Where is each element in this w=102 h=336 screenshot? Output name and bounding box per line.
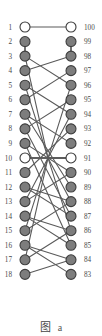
left-node-label-4: 4 — [8, 67, 12, 75]
graph-edge — [25, 85, 71, 158]
left-node-12[interactable] — [20, 182, 30, 192]
figure-caption: 图a — [0, 321, 102, 334]
left-node-label-7: 7 — [8, 111, 12, 119]
right-node-91[interactable] — [66, 153, 76, 163]
edge-layer — [25, 27, 71, 274]
left-node-7[interactable] — [20, 109, 30, 119]
graph-edge — [25, 56, 71, 71]
left-node-label-6: 6 — [8, 96, 12, 104]
right-node-99[interactable] — [66, 37, 76, 47]
right-node-label-99: 99 — [84, 38, 92, 46]
right-node-label-96: 96 — [84, 82, 92, 90]
caption-latin-text: a — [58, 322, 62, 333]
caption-cjk-text: 图 — [40, 321, 51, 334]
right-node-label-87: 87 — [84, 213, 92, 221]
left-node-label-17: 17 — [5, 256, 13, 264]
right-node-88[interactable] — [66, 197, 76, 207]
right-node-label-85: 85 — [84, 242, 92, 250]
left-node-label-8: 8 — [8, 125, 12, 133]
right-node-85[interactable] — [66, 240, 76, 250]
left-node-label-13: 13 — [5, 198, 13, 206]
right-node-87[interactable] — [66, 211, 76, 221]
right-node-90[interactable] — [66, 168, 76, 178]
right-node-label-86: 86 — [84, 227, 92, 235]
right-node-94[interactable] — [66, 109, 76, 119]
left-node-6[interactable] — [20, 95, 30, 105]
graph-edge — [25, 231, 71, 260]
left-node-9[interactable] — [20, 138, 30, 148]
graph-edge — [25, 129, 71, 216]
left-node-label-16: 16 — [5, 242, 13, 250]
graph-edge — [25, 114, 71, 187]
left-node-label-1: 1 — [8, 24, 12, 32]
graph-edge — [25, 245, 71, 260]
left-node-18[interactable] — [20, 269, 30, 279]
left-node-10[interactable] — [20, 153, 30, 163]
right-node-label-94: 94 — [84, 111, 92, 119]
left-node-13[interactable] — [20, 197, 30, 207]
left-node-2[interactable] — [20, 37, 30, 47]
right-node-label-95: 95 — [84, 96, 92, 104]
graph-edge — [25, 202, 71, 231]
right-node-96[interactable] — [66, 80, 76, 90]
figure-container: 1234567891011121314151617181009998979695… — [0, 0, 102, 336]
right-node-label-84: 84 — [84, 256, 92, 264]
left-node-label-11: 11 — [5, 169, 12, 177]
left-node-label-18: 18 — [5, 271, 13, 279]
right-node-label-100: 100 — [84, 24, 95, 32]
left-node-15[interactable] — [20, 226, 30, 236]
graph-edge — [25, 187, 71, 216]
left-node-4[interactable] — [20, 66, 30, 76]
graph-edge — [25, 85, 71, 114]
right-node-89[interactable] — [66, 182, 76, 192]
left-node-8[interactable] — [20, 124, 30, 134]
right-node-label-83: 83 — [84, 271, 92, 279]
right-node-label-88: 88 — [84, 198, 92, 206]
graph-edge — [25, 56, 71, 85]
left-node-11[interactable] — [20, 168, 30, 178]
right-node-label-93: 93 — [84, 125, 92, 133]
right-node-100[interactable] — [66, 22, 76, 32]
left-node-16[interactable] — [20, 240, 30, 250]
right-node-label-97: 97 — [84, 67, 92, 75]
right-node-83[interactable] — [66, 269, 76, 279]
left-node-label-3: 3 — [8, 53, 12, 61]
right-node-84[interactable] — [66, 255, 76, 265]
left-node-label-2: 2 — [8, 38, 12, 46]
right-node-86[interactable] — [66, 226, 76, 236]
right-node-95[interactable] — [66, 95, 76, 105]
right-node-label-98: 98 — [84, 53, 92, 61]
left-node-label-15: 15 — [5, 227, 13, 235]
right-node-label-90: 90 — [84, 169, 92, 177]
left-node-label-12: 12 — [5, 184, 13, 192]
right-node-label-91: 91 — [84, 155, 92, 163]
left-node-label-14: 14 — [5, 213, 13, 221]
graph-edge — [25, 114, 71, 143]
right-node-93[interactable] — [66, 124, 76, 134]
right-node-98[interactable] — [66, 51, 76, 61]
left-node-5[interactable] — [20, 80, 30, 90]
left-node-1[interactable] — [20, 22, 30, 32]
left-node-14[interactable] — [20, 211, 30, 221]
bipartite-graph-svg: 1234567891011121314151617181009998979695… — [0, 0, 102, 336]
left-node-label-5: 5 — [8, 82, 12, 90]
right-node-label-92: 92 — [84, 140, 92, 148]
graph-edge — [25, 245, 71, 274]
graph-edge — [25, 85, 71, 158]
left-node-label-10: 10 — [5, 155, 13, 163]
left-node-label-9: 9 — [8, 140, 12, 148]
graph-edge — [25, 260, 71, 275]
right-node-97[interactable] — [66, 66, 76, 76]
left-node-3[interactable] — [20, 51, 30, 61]
left-node-17[interactable] — [20, 255, 30, 265]
right-node-label-89: 89 — [84, 184, 92, 192]
right-node-92[interactable] — [66, 138, 76, 148]
